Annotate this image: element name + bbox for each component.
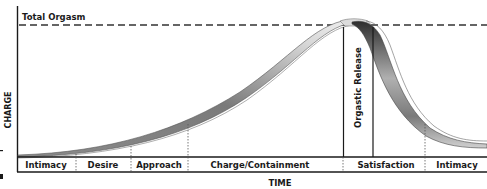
y-axis-label: CHARGE: [4, 92, 13, 129]
cropped-fragment-2: [0, 174, 3, 179]
x-axis-label: TIME: [268, 178, 291, 188]
phase-label-intimacy-1: Intimacy: [25, 160, 67, 170]
phase-label-desire: Desire: [88, 160, 119, 170]
phase-label-charge-containment: Charge/Containment: [211, 160, 310, 170]
phase-labels: Intimacy Desire Approach Charge/Containm…: [25, 160, 478, 170]
phase-label-approach: Approach: [136, 160, 182, 170]
orgastic-release-label: Orgastic Release: [353, 47, 363, 128]
rising-charge-band: [18, 20, 352, 157]
phase-label-satisfaction: Satisfaction: [357, 160, 414, 170]
orgasm-charge-diagram: Total Orgasm Orgastic Release Intimacy D…: [0, 0, 487, 189]
cropped-fragment-1: [0, 150, 3, 151]
phase-label-intimacy-2: Intimacy: [436, 160, 478, 170]
total-orgasm-label: Total Orgasm: [22, 12, 85, 22]
falling-release-band: [352, 21, 487, 148]
